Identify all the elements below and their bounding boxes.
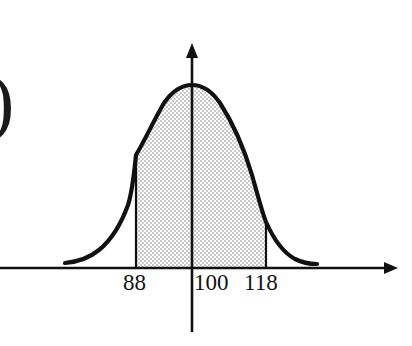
figure-root: ) 88 100 118 [0,0,412,346]
tick-label-88: 88 [123,271,146,294]
tick-label-118: 118 [244,271,278,294]
tick-label-100: 100 [194,271,229,294]
panel-marker-paren: ) [0,63,14,139]
